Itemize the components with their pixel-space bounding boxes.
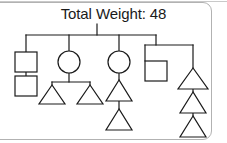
total-weight-title: Total Weight: 48 (0, 5, 227, 23)
node-square-n1 (15, 52, 37, 72)
node-circle-n3 (58, 51, 80, 73)
node-triangle-n7 (106, 80, 132, 101)
node-triangle-n10 (178, 68, 208, 89)
node-triangle-n4 (39, 85, 65, 104)
node-square-n9 (145, 61, 167, 81)
node-triangle-n8 (106, 109, 132, 130)
node-triangle-n5 (77, 85, 103, 104)
node-circle-n6 (108, 51, 130, 73)
node-triangle-n11 (180, 92, 206, 113)
node-triangle-n12 (180, 116, 206, 137)
diagram-screenshot: Total Weight: 48 (0, 0, 227, 143)
node-square-n2 (15, 76, 37, 96)
tree-nodes (15, 51, 208, 137)
